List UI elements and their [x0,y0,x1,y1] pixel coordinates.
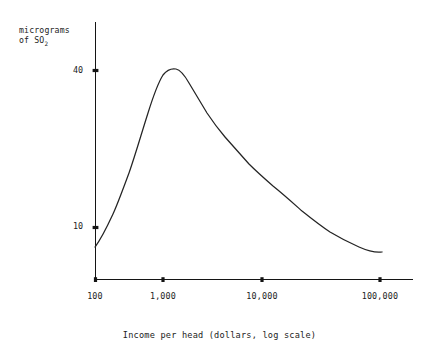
so2-concentration-curve [95,69,382,253]
x-tick-label-100: 100 [60,291,130,302]
x-tick-label-10000: 10,000 [227,291,297,302]
y-tick-label-40: 40 [61,65,83,76]
x-tick-label-1000: 1,000 [128,291,198,302]
y-axis-label-line2: of SO [19,35,44,45]
y-axis-label-line1: micrograms [19,25,70,35]
y-axis-label: microgramsof SO2 [19,25,70,46]
chart-figure: microgramsof SO2 40 10 100 1,000 10,000 … [0,0,439,350]
x-tick-label-100000: 100,000 [345,291,415,302]
y-tick-label-10: 10 [61,221,83,232]
x-axis-title: Income per head (dollars, log scale) [0,330,439,341]
y-axis-label-subscript: 2 [44,40,48,47]
